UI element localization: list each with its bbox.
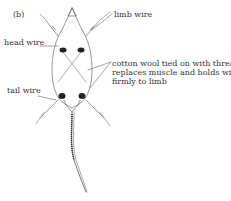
cotton-wool-lower-right: [79, 93, 86, 99]
tail-wire-leader: [38, 96, 56, 100]
cotton-wool-upper-right: [78, 48, 85, 53]
body-outline: [52, 30, 92, 108]
cotton-wool-lower-left: [59, 93, 66, 99]
limb-wire-leader: [92, 14, 112, 30]
cotton-wool-leaders: [88, 62, 111, 88]
cotton-wool-line-2: replaces muscle and holds wire: [112, 68, 231, 77]
forelimbs: [44, 18, 100, 36]
head-wire-label: head wire: [4, 38, 44, 47]
panel-label: (b): [13, 10, 24, 19]
cotton-wool-upper-left: [60, 48, 67, 53]
specimen-illustration: [0, 0, 231, 201]
limb-wire-label: limb wire: [114, 10, 152, 19]
cotton-wool-label: cotton wool tied on with thread replaces…: [112, 59, 231, 86]
diagram-figure: (b) limb wire head wire tail wire cotton…: [0, 0, 231, 201]
tail-wire-label: tail wire: [7, 86, 41, 95]
cotton-wool-line-1: cotton wool tied on with thread: [112, 59, 231, 68]
cross-wires: [58, 48, 86, 82]
cotton-wool-line-3: firmly to limb: [112, 77, 231, 86]
